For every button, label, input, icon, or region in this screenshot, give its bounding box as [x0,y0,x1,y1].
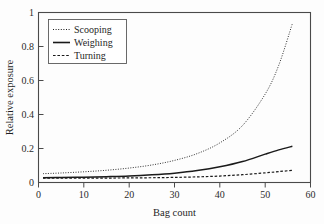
x-tick-label-5: 50 [260,189,270,200]
y-axis-title: Relative exposure [4,59,15,135]
x-tick-label-6: 60 [306,189,316,200]
y-tick-label-5: 1 [29,7,34,18]
legend: Scooping Weighing Turning [49,20,127,64]
relative-exposure-line-chart: 0 0.2 0.4 0.6 0.8 1 0 10 20 30 40 50 60 [0,0,324,224]
y-tick-label-4: 0.8 [22,41,35,52]
legend-label-scooping: Scooping [74,24,112,35]
y-tick-label-1: 0.2 [22,143,35,154]
x-tick-label-3: 30 [170,189,180,200]
y-tick-label-3: 0.6 [22,75,35,86]
chart-page: 0 0.2 0.4 0.6 0.8 1 0 10 20 30 40 50 60 [0,0,324,224]
x-tick-label-0: 0 [36,189,41,200]
y-tick-label-2: 0.4 [22,109,35,120]
legend-label-turning: Turning [74,50,106,61]
x-tick-label-2: 20 [124,189,134,200]
legend-label-weighing: Weighing [74,37,113,48]
x-tick-label-1: 10 [79,189,89,200]
x-axis-title: Bag count [153,207,196,218]
y-tick-label-0: 0 [29,177,34,188]
x-tick-label-4: 40 [215,189,225,200]
